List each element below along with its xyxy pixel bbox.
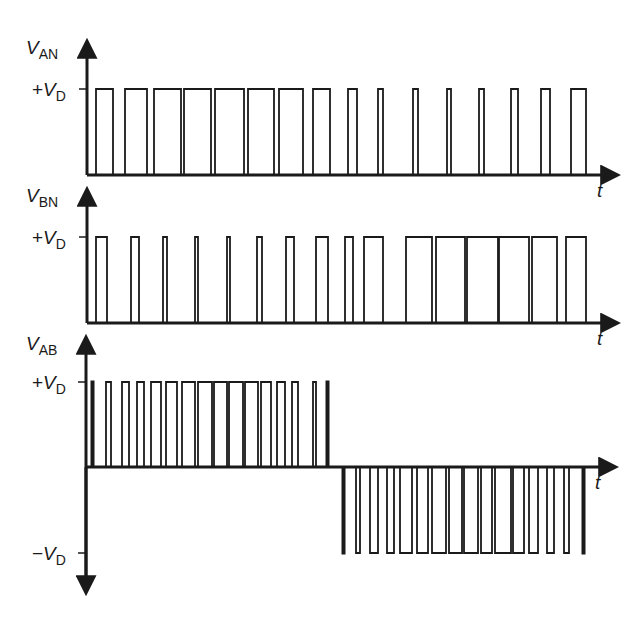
negative-pulse <box>400 467 412 553</box>
negative-pulse <box>417 467 428 553</box>
pulse <box>245 382 258 467</box>
pulse <box>286 237 294 323</box>
y-axis-label-subscript: AB <box>39 342 58 358</box>
y-axis-label: VAN <box>26 37 58 62</box>
time-axis-label: t <box>595 472 601 493</box>
pulse <box>511 89 518 175</box>
negative-pulse <box>495 467 511 553</box>
pulse <box>277 382 285 467</box>
positive-level-label: +VD <box>32 372 66 397</box>
y-axis-label-subscript: BN <box>39 194 58 210</box>
pulse <box>182 382 195 467</box>
negative-pulse <box>481 467 492 553</box>
pulse <box>261 382 271 467</box>
pulse <box>106 382 111 467</box>
negative-pulse <box>432 467 446 553</box>
time-axis-label: t <box>597 180 603 201</box>
y-axis-label: VAB <box>26 333 57 358</box>
pulse <box>316 237 328 323</box>
pulse <box>499 237 529 323</box>
pulse <box>378 89 383 175</box>
pulse <box>92 382 93 467</box>
pulse <box>198 382 212 467</box>
negative-pulse <box>583 467 584 553</box>
pulse <box>413 89 418 175</box>
pulse <box>532 237 557 323</box>
pulse <box>122 382 129 467</box>
negative-level-label-sign: − <box>32 543 43 564</box>
waveform-panel-vab: tVAB+VD−VD <box>26 333 615 592</box>
pwm-waveform-diagram: tVAN+VDtVBN+VDtVAB+VD−VD <box>0 0 631 627</box>
positive-level-label-subscript: D <box>56 236 66 252</box>
pulse <box>195 237 198 323</box>
pulse <box>214 382 227 467</box>
waveform-panel-van: tVAN+VD <box>26 37 617 201</box>
pulse <box>345 237 353 323</box>
positive-level-label-sign: + <box>32 227 43 248</box>
negative-pulse <box>343 467 344 553</box>
pulse <box>467 237 498 323</box>
time-axis-label: t <box>597 328 603 349</box>
pulse <box>215 89 244 175</box>
y-axis-label: VBN <box>26 185 58 210</box>
pulse <box>436 237 465 323</box>
pulse <box>447 89 451 175</box>
pulse <box>313 89 330 175</box>
pulse <box>125 89 147 175</box>
negative-pulse <box>464 467 478 553</box>
pulse <box>137 382 144 467</box>
negative-level-label: −VD <box>32 543 66 568</box>
pulse <box>96 89 113 175</box>
pulse <box>566 237 586 323</box>
pulse <box>257 237 262 323</box>
pulse <box>227 237 230 323</box>
pulse <box>348 89 357 175</box>
pulse <box>327 382 328 467</box>
pulse <box>166 382 177 467</box>
pulse <box>248 89 274 175</box>
positive-level-label-subscript: D <box>56 88 66 104</box>
pulse <box>541 89 550 175</box>
pulse <box>479 89 484 175</box>
pulse <box>292 382 298 467</box>
pulse <box>313 382 316 467</box>
negative-pulse <box>356 467 360 553</box>
positive-level-label-sign: + <box>32 372 43 393</box>
positive-level-label: +VD <box>32 79 66 104</box>
negative-pulse <box>370 467 378 553</box>
pulse <box>406 237 432 323</box>
pulse <box>163 237 167 323</box>
positive-level-label-subscript: D <box>56 381 66 397</box>
pulse <box>96 237 107 323</box>
negative-pulse <box>564 467 569 553</box>
negative-level-label-subscript: D <box>56 552 66 568</box>
pulse <box>131 237 139 323</box>
positive-level-label: +VD <box>32 227 66 252</box>
pulse <box>184 89 211 175</box>
pulse <box>279 89 303 175</box>
pulse <box>151 382 161 467</box>
negative-pulse <box>387 467 394 553</box>
positive-level-label-sign: + <box>32 79 43 100</box>
pulse <box>364 237 383 323</box>
negative-pulse <box>547 467 554 553</box>
negative-pulse <box>529 467 538 553</box>
waveform-panel-vbn: tVBN+VD <box>26 185 617 349</box>
pulse <box>154 89 181 175</box>
pulse <box>229 382 243 467</box>
negative-pulse <box>513 467 524 553</box>
y-axis-label-subscript: AN <box>39 46 58 62</box>
negative-pulse <box>449 467 462 553</box>
pulse <box>571 89 586 175</box>
